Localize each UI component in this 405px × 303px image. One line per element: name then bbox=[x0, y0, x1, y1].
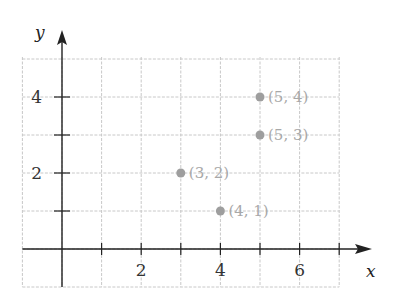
point-label: (4, 1) bbox=[228, 202, 268, 220]
point-label: (5, 3) bbox=[268, 126, 308, 144]
data-point: (4, 1) bbox=[216, 202, 269, 220]
x-tick-label: 4 bbox=[215, 260, 226, 280]
x-axis-label: x bbox=[366, 261, 376, 281]
data-point: (5, 4) bbox=[256, 88, 309, 106]
x-tick-label: 2 bbox=[136, 260, 147, 280]
y-tick-label: 4 bbox=[31, 87, 42, 107]
data-points: (5, 4)(5, 3)(3, 2)(4, 1) bbox=[176, 88, 308, 220]
point-marker bbox=[216, 207, 225, 216]
y-tick-label: 2 bbox=[31, 163, 42, 183]
point-label: (5, 4) bbox=[268, 88, 308, 106]
scatter-plot: 24624 (5, 4)(5, 3)(3, 2)(4, 1) x y bbox=[0, 0, 405, 303]
point-marker bbox=[256, 93, 265, 102]
axes bbox=[22, 30, 372, 287]
y-axis-label: y bbox=[34, 22, 45, 42]
ticks: 24624 bbox=[31, 87, 339, 280]
point-marker bbox=[256, 131, 265, 140]
x-tick-label: 6 bbox=[294, 260, 305, 280]
data-point: (5, 3) bbox=[256, 126, 309, 144]
point-marker bbox=[176, 169, 185, 178]
point-label: (3, 2) bbox=[189, 164, 229, 182]
data-point: (3, 2) bbox=[176, 164, 229, 182]
